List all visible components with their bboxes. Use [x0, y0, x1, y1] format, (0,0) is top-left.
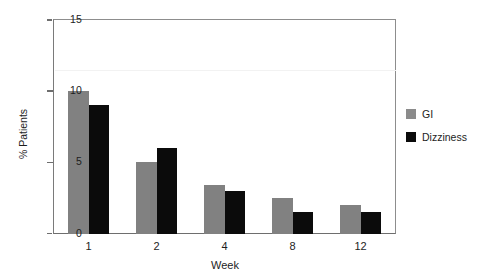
y-tick-label: 10 — [58, 84, 82, 96]
x-tick-label: 12 — [331, 240, 391, 252]
bar-dizziness-week-8 — [293, 212, 314, 233]
x-tick-label: 4 — [195, 240, 255, 252]
legend-swatch-dizziness-icon — [406, 132, 416, 142]
bar-gi-week-12 — [340, 205, 361, 233]
legend-swatch-gi-icon — [406, 109, 416, 119]
bar-dizziness-week-12 — [361, 212, 382, 233]
bar-group — [123, 20, 191, 234]
bars-layer — [55, 20, 395, 234]
legend-label-dizziness: Dizziness — [422, 131, 467, 143]
y-tick-label: 5 — [58, 155, 82, 167]
legend-item-dizziness: Dizziness — [406, 131, 478, 143]
bar-group — [191, 20, 259, 234]
y-tick-mark — [47, 162, 53, 164]
legend-item-gi: GI — [406, 108, 478, 120]
x-axis-label: Week — [163, 259, 287, 271]
bar-group — [55, 20, 123, 234]
y-tick-mark — [47, 90, 53, 92]
bar-group — [327, 20, 395, 234]
y-tick-mark — [47, 233, 52, 235]
bar-gi-week-2 — [136, 162, 157, 233]
bar-gi-week-4 — [204, 185, 225, 233]
bar-gi-week-8 — [272, 198, 293, 234]
chart-legend: GI Dizziness — [406, 108, 478, 154]
y-tick-label: 15 — [58, 13, 82, 25]
bar-dizziness-week-2 — [157, 148, 178, 233]
x-tick-label: 8 — [263, 240, 323, 252]
y-axis-label: % Patients — [17, 89, 29, 179]
y-tick-label: 0 — [58, 227, 82, 239]
y-tick-mark — [47, 19, 52, 21]
bar-dizziness-week-4 — [225, 191, 246, 234]
bar-group — [259, 20, 327, 234]
bar-chart-figure: 051015 % Patients 124812 Week GI Dizzine… — [0, 0, 481, 279]
x-tick-label: 2 — [127, 240, 187, 252]
bar-dizziness-week-1 — [89, 105, 110, 233]
x-tick-label: 1 — [59, 240, 119, 252]
legend-label-gi: GI — [422, 108, 433, 120]
